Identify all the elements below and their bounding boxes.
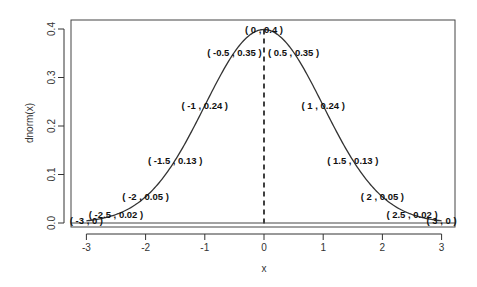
- x-axis-title: x: [262, 263, 267, 274]
- point-label: ( 0 , 0.4 ): [245, 24, 283, 35]
- y-tick-label: 0.2: [46, 119, 57, 133]
- point-label: ( -1.5 , 0.13 ): [148, 155, 202, 166]
- y-tick-label: 0.1: [46, 167, 57, 181]
- y-axis: 0.00.10.20.30.4: [46, 22, 64, 230]
- x-tick-label: -3: [82, 242, 91, 253]
- point-label: ( 0.5 , 0.35 ): [268, 47, 319, 58]
- point-label: ( -1 , 0.24 ): [182, 100, 228, 111]
- x-tick-label: 3: [439, 242, 445, 253]
- x-tick-label: 0: [261, 242, 267, 253]
- point-label: ( -2.5 , 0.02 ): [89, 209, 143, 220]
- point-label: ( -2 , 0.05 ): [122, 191, 168, 202]
- point-label: ( 1.5 , 0.13 ): [327, 155, 378, 166]
- point-label: ( 3 , 0 ): [427, 215, 457, 226]
- y-tick-label: 0.0: [46, 216, 57, 230]
- y-tick-label: 0.3: [46, 70, 57, 84]
- x-axis: -3-2-10123: [82, 234, 445, 253]
- y-axis-title: dnorm(x): [24, 103, 35, 143]
- x-tick-label: 2: [380, 242, 386, 253]
- point-label: ( -0.5 , 0.35 ): [207, 47, 261, 58]
- x-tick-label: -1: [200, 242, 209, 253]
- y-tick-label: 0.4: [46, 22, 57, 36]
- density-chart: 0.00.10.20.30.4 -3-2-10123 dnorm(x) x ( …: [0, 0, 477, 287]
- point-label: ( 1 , 0.24 ): [302, 100, 345, 111]
- x-tick-label: -2: [141, 242, 150, 253]
- point-label: ( 2 , 0.05 ): [361, 191, 404, 202]
- x-tick-label: 1: [320, 242, 326, 253]
